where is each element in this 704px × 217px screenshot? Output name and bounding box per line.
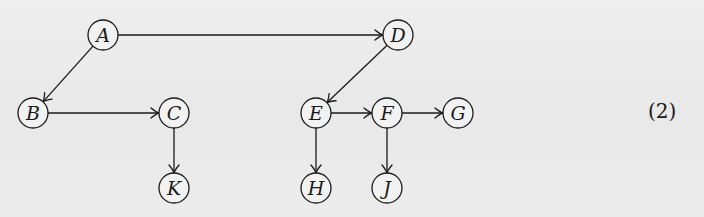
node-label: D [389,24,405,46]
edge-f-g [402,108,443,118]
diagram-canvas: ADBCEFGKHJ (2) [0,0,704,217]
node-g: G [443,98,473,128]
node-label: C [167,102,182,124]
node-label: G [450,102,465,124]
node-label: K [166,177,183,199]
edge-b-c [48,108,159,118]
edge-e-f [331,108,372,118]
edge-e-h [311,128,321,173]
node-a: A [88,20,118,50]
edge-a-d [118,30,383,40]
edge-line [327,45,387,102]
node-label: E [308,102,323,124]
edge-c-k [169,128,179,173]
edge-d-e [327,45,387,102]
node-c: C [159,98,189,128]
edge-f-j [382,128,392,173]
node-label: A [94,24,110,46]
node-f: F [372,98,402,128]
node-d: D [383,20,413,50]
equation-number: (2) [648,99,676,123]
node-h: H [301,173,331,203]
edge-line [43,46,93,102]
nodes-layer: ADBCEFGKHJ [18,20,473,203]
node-label: H [307,177,325,199]
node-b: B [18,98,48,128]
node-label: F [379,102,394,124]
node-e: E [301,98,331,128]
node-label: B [25,102,40,124]
node-j: J [372,173,402,203]
edge-a-b [43,46,93,102]
node-k: K [159,173,189,203]
directed-graph: ADBCEFGKHJ [0,0,704,217]
